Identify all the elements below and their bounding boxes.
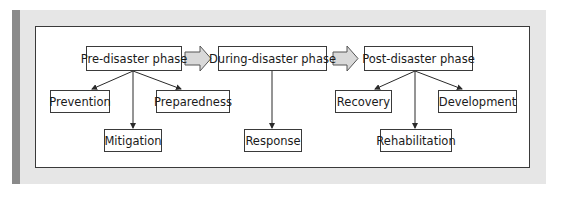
node-recovery: Recovery <box>335 90 392 113</box>
node-preparedness: Preparedness <box>156 90 230 113</box>
block-arrow-icon <box>333 46 358 71</box>
node-development: Development <box>438 90 517 113</box>
phase-box-during-disaster: During-disaster phase <box>218 46 327 71</box>
node-prevention: Prevention <box>50 90 110 113</box>
node-rehabilitation: Rehabilitation <box>380 129 452 152</box>
node-mitigation: Mitigation <box>104 129 162 152</box>
node-response: Response <box>244 129 302 152</box>
block-arrow-icon <box>185 46 211 71</box>
phase-box-pre-disaster: Pre-disaster phase <box>86 46 182 71</box>
phase-box-post-disaster: Post-disaster phase <box>364 46 473 71</box>
